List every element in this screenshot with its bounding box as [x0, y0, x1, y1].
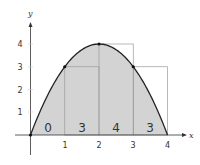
x-tick-label: 2 — [96, 141, 101, 150]
x-axis-label: x — [189, 131, 194, 140]
y-tick-label: 2 — [17, 86, 22, 95]
data-point — [97, 42, 100, 45]
rect-label: 0 — [44, 121, 52, 135]
y-axis-arrow-icon — [29, 22, 33, 27]
data-point — [29, 133, 32, 136]
y-axis-label: y — [27, 9, 33, 18]
x-tick-label: 3 — [130, 141, 135, 150]
x-tick-label: 4 — [165, 141, 170, 150]
data-point — [132, 65, 135, 68]
y-tick-label: 1 — [17, 108, 22, 117]
rect-label: 3 — [146, 121, 154, 135]
x-tick-label: 1 — [62, 141, 67, 150]
y-tick-label: 3 — [17, 63, 22, 72]
x-ticks: 1 2 3 4 — [62, 141, 170, 150]
rect-label: 4 — [112, 121, 120, 135]
rect-label: 3 — [78, 121, 86, 135]
y-tick-label: 4 — [17, 40, 22, 49]
data-point — [63, 65, 66, 68]
riemann-sum-chart: x y 1 2 3 4 1 2 3 4 0 3 4 3 — [0, 0, 200, 165]
x-axis-arrow-icon — [182, 133, 187, 137]
